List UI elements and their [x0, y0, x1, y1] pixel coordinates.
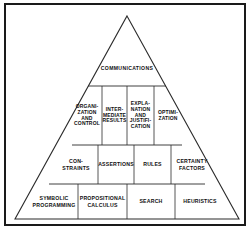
cell-symbolic-programming[interactable]: SYMBOLIC PROGRAMMING	[30, 184, 78, 219]
cell-constraints[interactable]: CON- STRAINTS	[54, 145, 98, 184]
cell-explanation-and-justification[interactable]: EXPLA- NATION AND JUSTIFI- CATION	[127, 86, 154, 145]
cell-search[interactable]: SEARCH	[127, 184, 175, 219]
cell-optimization[interactable]: OPTIMI- ZATION	[154, 86, 182, 145]
cell-rules[interactable]: RULES	[134, 145, 171, 184]
cell-propositional-calculus[interactable]: PROPOSITIONAL CALCULUS	[78, 184, 127, 219]
cell-assertions[interactable]: ASSERTIONS	[98, 145, 134, 184]
cell-certainty-factors[interactable]: CERTAINTY FACTORS	[171, 145, 213, 184]
cell-organization-and-control[interactable]: ORGANI- ZATION AND CONTROL	[72, 86, 102, 145]
cell-intermediate-results[interactable]: INTER- MEDIATE RESULTS	[102, 86, 127, 145]
cell-communications[interactable]: COMMUNICATIONS	[80, 61, 174, 75]
figure-frame: COMMUNICATIONS ORGANI- ZATION AND CONTRO…	[4, 3, 246, 226]
pyramid-diagram: COMMUNICATIONS ORGANI- ZATION AND CONTRO…	[6, 5, 248, 228]
cell-heuristics[interactable]: HEURISTICS	[175, 184, 225, 219]
